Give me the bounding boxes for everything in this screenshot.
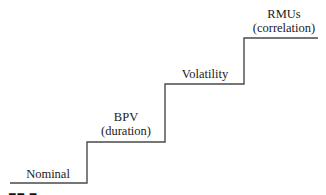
step-label-nominal: Nominal	[26, 167, 70, 181]
cropped-caption-fragment: ■■ ■	[8, 189, 40, 195]
step-label-bpv: BPV (duration)	[101, 110, 151, 138]
cropped-caption-glyphs: ■■ ■	[8, 189, 40, 195]
step-2-subtitle: (duration)	[101, 124, 151, 138]
step-1-title: Nominal	[26, 167, 70, 181]
step-label-rmus: RMUs (correlation)	[253, 7, 315, 35]
step-label-volatility: Volatility	[182, 67, 228, 81]
step-3-title: Volatility	[182, 67, 228, 81]
step-2-title: BPV	[101, 110, 151, 124]
staircase-line	[10, 38, 318, 183]
step-4-title: RMUs	[253, 7, 315, 21]
step-4-subtitle: (correlation)	[253, 21, 315, 35]
